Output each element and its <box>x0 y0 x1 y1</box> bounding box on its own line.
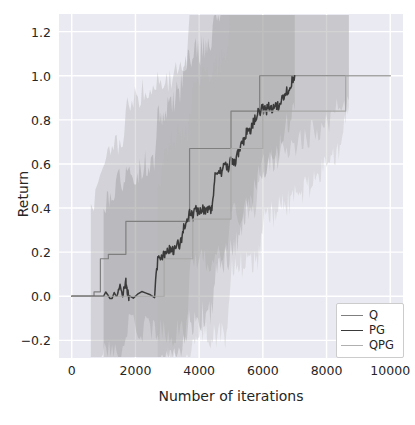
legend-item-pg: PG <box>341 323 398 338</box>
y-axis-label: Return <box>15 104 31 284</box>
x-tick-label: 0 <box>68 363 76 378</box>
x-tick-label: 8000 <box>311 363 343 378</box>
chart-figure: −0.20.00.20.40.60.81.01.2 02000400060008… <box>0 0 415 425</box>
y-tick-label: 1.2 <box>3 24 51 39</box>
legend-line-swatch-q <box>341 315 363 316</box>
x-tick-label: 10000 <box>370 363 410 378</box>
y-tick-label: 1.0 <box>3 68 51 83</box>
chart-legend[interactable]: Q PG QPG <box>336 303 404 358</box>
x-tick-label: 4000 <box>183 363 215 378</box>
y-tick-label: 0.0 <box>3 289 51 304</box>
y-tick-label: −0.2 <box>3 333 51 348</box>
legend-label-qpg: QPG <box>369 340 394 352</box>
legend-line-swatch-qpg <box>341 345 363 346</box>
legend-label-pg: PG <box>369 325 385 337</box>
x-tick-label: 6000 <box>247 363 279 378</box>
confidence-bands <box>91 15 349 357</box>
x-axis-label: Number of iterations <box>59 388 403 404</box>
legend-label-q: Q <box>369 310 378 322</box>
legend-line-swatch-pg <box>341 330 363 331</box>
legend-item-qpg: QPG <box>341 338 398 353</box>
x-tick-label: 2000 <box>120 363 152 378</box>
legend-item-q: Q <box>341 308 398 323</box>
